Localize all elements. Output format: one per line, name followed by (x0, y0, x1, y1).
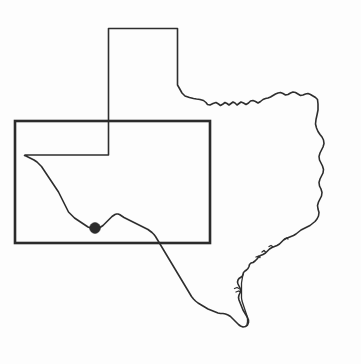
map-canvas (0, 0, 361, 364)
coast-spur-icon (269, 246, 273, 247)
texas-reference-map (0, 0, 361, 364)
site-location-dot (90, 223, 101, 234)
map-background (0, 0, 361, 364)
coast-spur-icon (285, 238, 289, 239)
